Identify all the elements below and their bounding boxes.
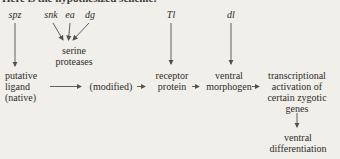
gene-label-dg: dg: [85, 9, 95, 20]
receptor-protein-label: receptor protein: [156, 70, 189, 92]
transcriptional-activation-label: transcriptional activation of certain zy…: [267, 70, 326, 114]
serine-proteases-label: serine proteases: [55, 45, 92, 67]
gene-label-spz: spz: [9, 9, 22, 20]
gene-label-snk: snk: [44, 9, 57, 20]
ligand-line1: putative: [5, 70, 37, 81]
putative-ligand-label: putative ligand (native): [5, 70, 37, 103]
ventral-differentiation-label: ventral differentiation: [269, 132, 326, 154]
receptor-line2: protein: [156, 81, 189, 92]
receptor-line1: receptor: [156, 70, 189, 81]
ligand-line3: (native): [5, 92, 37, 103]
morphogen-line2: morphogen: [206, 81, 252, 92]
serine-proteases-line2: proteases: [55, 56, 92, 67]
ligand-line2: ligand: [5, 81, 37, 92]
clipped-heading-text: Here is the hypothesized scheme:: [2, 0, 172, 4]
gene-label-ea: ea: [65, 9, 74, 20]
clipped-heading: Here is the hypothesized scheme:: [2, 0, 172, 6]
morphogen-line1: ventral: [206, 70, 252, 81]
serine-proteases-line1: serine: [55, 45, 92, 56]
arrow-snk-to-proteases: [53, 23, 63, 40]
transcription-line3: certain zygotic: [267, 92, 326, 103]
transcription-line4: genes: [267, 103, 326, 114]
gene-label-dl: dl: [227, 9, 235, 20]
gene-label-Tl: Tl: [167, 9, 175, 20]
ventral-morphogen-label: ventral morphogen: [206, 70, 252, 92]
arrow-ea-to-proteases: [69, 23, 71, 40]
arrow-dg-to-proteases: [73, 23, 89, 40]
outcome-line1: ventral: [269, 132, 326, 143]
outcome-line2: differentiation: [269, 143, 326, 154]
modified-label: (modified): [90, 81, 133, 92]
transcription-line1: transcriptional: [267, 70, 326, 81]
pathway-diagram: Here is the hypothesized scheme: spz snk…: [0, 0, 340, 159]
transcription-line2: activation of: [267, 81, 326, 92]
